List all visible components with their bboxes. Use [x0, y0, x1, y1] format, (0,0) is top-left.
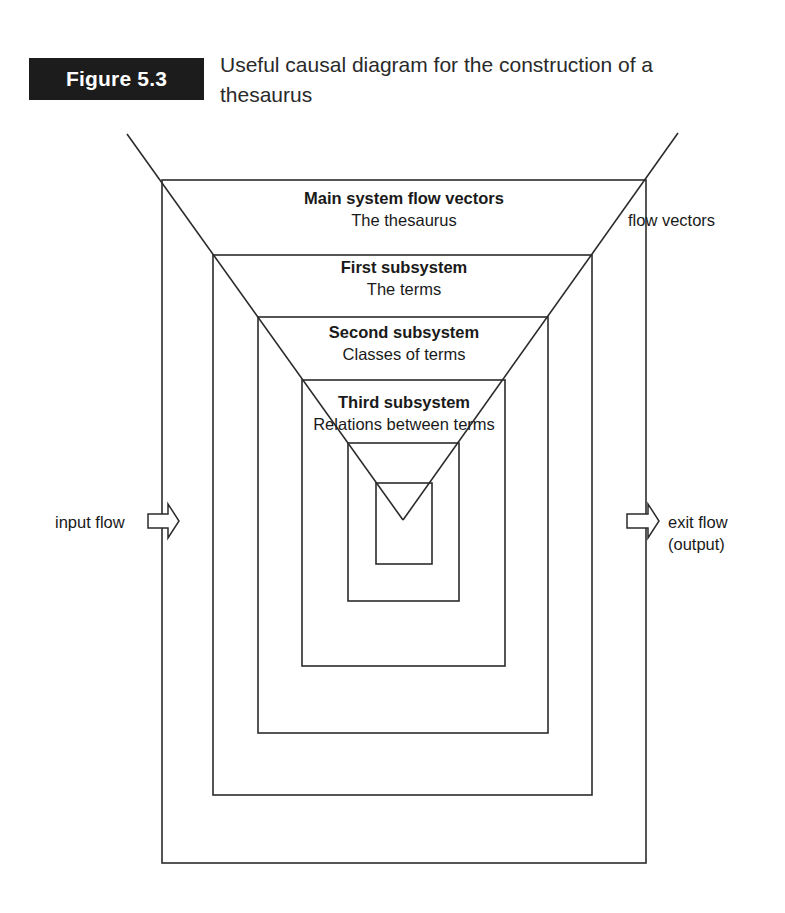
input-flow-label: input flow [55, 511, 125, 533]
input-arrow-icon [148, 504, 179, 538]
level-title: First subsystem [254, 256, 554, 278]
level-subtitle: The terms [254, 278, 554, 300]
level-subtitle: The thesaurus [254, 209, 554, 231]
level-title: Main system flow vectors [254, 187, 554, 209]
exit-flow-label: exit flow (output) [668, 511, 728, 555]
flow-vectors-label: flow vectors [628, 209, 715, 231]
nested-systems-diagram [0, 0, 785, 913]
exit-flow-line-1: exit flow [668, 511, 728, 533]
level-title: Third subsystem [254, 391, 554, 413]
level-subtitle: Classes of terms [254, 343, 554, 365]
level-title: Second subsystem [254, 321, 554, 343]
level-subtitle: Relations between terms [254, 413, 554, 435]
level-label-second: Second subsystem Classes of terms [254, 321, 554, 365]
level-label-first: First subsystem The terms [254, 256, 554, 300]
level-label-main: Main system flow vectors The thesaurus [254, 187, 554, 231]
exit-flow-line-2: (output) [668, 533, 728, 555]
exit-arrow-icon [627, 504, 659, 538]
level-label-third: Third subsystem Relations between terms [254, 391, 554, 435]
